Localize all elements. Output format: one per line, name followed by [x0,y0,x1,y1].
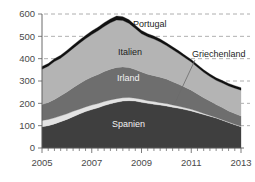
x-tick-labels-group: 20052007200920112013 [31,157,251,168]
y-tick-label-300: 300 [19,75,35,86]
y-tick-labels-group: 0100200300400500600 [19,8,35,153]
y-tick-label-100: 100 [19,120,35,131]
stacked-area-chart: 0100200300400500600 20052007200920112013… [0,0,255,182]
x-tick-label-2005: 2005 [31,157,52,168]
y-tick-label-500: 500 [19,31,35,42]
series-label-portugal: Portugal [133,19,167,29]
y-tick-label-600: 600 [19,8,35,19]
series-label-italien: Italien [118,47,142,57]
y-tick-label-0: 0 [30,142,35,153]
series-label-irland: Irland [117,73,140,83]
y-tick-label-200: 200 [19,98,35,109]
chart-canvas: 0100200300400500600 20052007200920112013… [0,0,255,182]
series-label-griechenland: Griechenland [192,49,246,59]
x-tick-label-2007: 2007 [81,157,102,168]
series-label-spanien: Spanien [112,119,145,129]
x-tick-label-2009: 2009 [131,157,152,168]
x-tick-label-2013: 2013 [230,157,251,168]
y-tick-label-400: 400 [19,53,35,64]
x-tick-label-2011: 2011 [181,157,201,168]
